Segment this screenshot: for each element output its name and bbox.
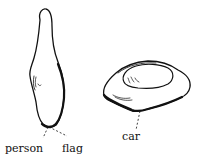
diagram-canvas <box>0 0 205 165</box>
tall-stone-shape <box>30 9 64 127</box>
label-person: person <box>5 143 43 154</box>
leader-car <box>136 111 140 130</box>
leader-person <box>43 127 48 138</box>
label-flag: flag <box>62 143 83 154</box>
label-car: car <box>122 131 140 142</box>
leader-flag <box>49 127 67 136</box>
flat-stone-shape <box>104 61 191 111</box>
